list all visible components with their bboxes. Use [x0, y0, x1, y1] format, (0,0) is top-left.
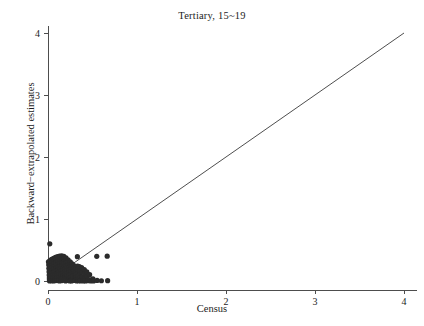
x-tick-label: 0 — [46, 296, 51, 307]
y-tick-label: 4 — [35, 28, 40, 39]
data-point — [94, 254, 99, 259]
y-tick-label: 0 — [35, 276, 40, 287]
y-tick-label: 1 — [35, 214, 40, 225]
data-point — [87, 272, 92, 277]
data-points-layer — [46, 241, 110, 283]
data-point — [105, 278, 110, 283]
plot-canvas: 01234 01234 — [0, 0, 424, 326]
x-tick-label: 2 — [224, 296, 229, 307]
y-tick-label: 3 — [35, 90, 40, 101]
x-tick-label: 1 — [135, 296, 140, 307]
identity-line — [48, 33, 404, 281]
y-tick-label: 2 — [35, 152, 40, 163]
y-axis: 01234 — [35, 26, 48, 287]
data-point — [47, 241, 52, 246]
x-tick-label: 4 — [402, 296, 407, 307]
data-point — [75, 254, 80, 259]
data-point — [105, 254, 110, 259]
scatter-plot-figure: Tertiary, 15~19 Backward−extrapolated es… — [0, 0, 424, 326]
data-point — [99, 278, 104, 283]
x-axis: 01234 — [46, 290, 418, 307]
x-tick-label: 3 — [313, 296, 318, 307]
identity-reference-line — [48, 33, 404, 281]
